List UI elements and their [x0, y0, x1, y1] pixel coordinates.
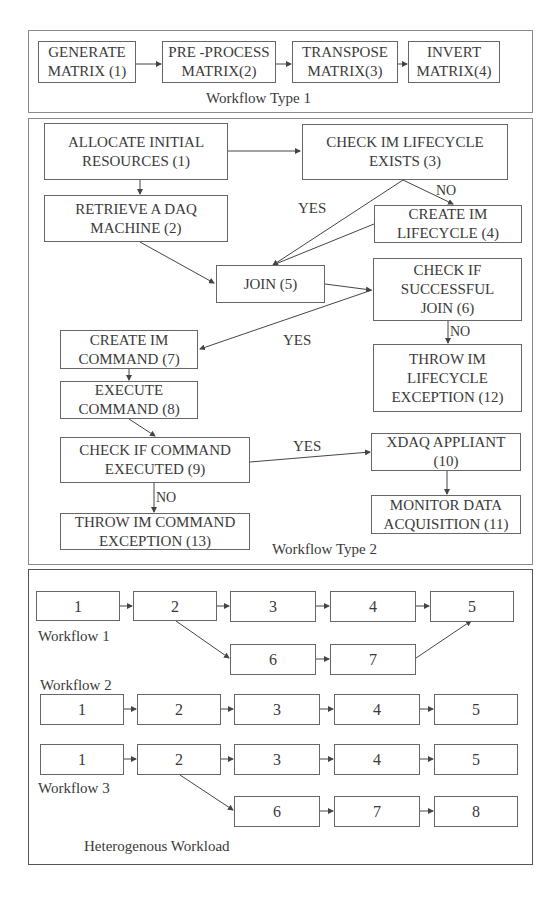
- wt2-node-2: RETRIEVE A DAQ MACHINE (2): [44, 195, 228, 242]
- wt1-node-invert-matrix: INVERT MATRIX(4): [408, 41, 500, 83]
- wf1-node-4: 4: [330, 591, 416, 622]
- wf1-node-1: 1: [36, 591, 120, 621]
- wt2-node-7: CREATE IM COMMAND (7): [60, 330, 198, 369]
- wt2-edge-label-yes-6-7: YES: [283, 332, 311, 348]
- wf2-node-3: 3: [234, 694, 320, 725]
- wf3-node-4: 4: [334, 744, 420, 775]
- wt2-edge-label-yes-9-10: YES: [293, 438, 321, 454]
- heterogenous-workload-caption: Heterogenous Workload: [84, 838, 230, 854]
- wf3-node-1: 1: [40, 744, 124, 775]
- wf1-node-3: 3: [230, 591, 316, 622]
- wf3-label: Workflow 3: [38, 780, 110, 796]
- wt2-node-3: CHECK IM LIFECYCLE EXISTS (3): [302, 124, 508, 180]
- wf1-node-6: 6: [230, 644, 316, 675]
- wt2-node-8: EXECUTE COMMAND (8): [60, 381, 198, 419]
- wt2-node-4: CREATE IM LIFECYCLE (4): [374, 205, 522, 243]
- wf3-node-6: 6: [234, 796, 320, 827]
- wt2-edge-label-no-3-4: NO: [436, 183, 456, 199]
- wt2-edge-label-no-6-12: NO: [450, 324, 470, 340]
- wf2-node-2: 2: [137, 694, 221, 725]
- wf3-node-8: 8: [434, 796, 518, 827]
- wt2-edge-label-no-9-13: NO: [156, 490, 176, 506]
- wt2-caption: Workflow Type 2: [272, 541, 377, 557]
- wf3-node-5: 5: [434, 744, 518, 775]
- wf3-node-2: 2: [137, 744, 221, 775]
- wf2-label: Workflow 2: [40, 677, 112, 693]
- wf3-node-7: 7: [334, 796, 420, 827]
- wt2-node-5: JOIN (5): [216, 265, 325, 303]
- wt2-node-11: MONITOR DATA ACQUISITION (11): [371, 495, 521, 534]
- wt2-node-12: THROW IM LIFECYCLE EXCEPTION (12): [373, 344, 522, 412]
- wt1-caption: Workflow Type 1: [206, 90, 311, 106]
- wf1-node-5: 5: [430, 591, 514, 622]
- wt1-node-generate-matrix: GENERATE MATRIX (1): [38, 41, 136, 83]
- wt2-edge-label-yes-3-5: YES: [298, 200, 326, 216]
- wt2-node-13: THROW IM COMMAND EXCEPTION (13): [60, 513, 250, 550]
- wf1-node-7: 7: [330, 644, 416, 675]
- wt1-node-preprocess-matrix: PRE -PROCESS MATRIX(2): [162, 41, 276, 83]
- wt2-node-6: CHECK IF SUCCESSFUL JOIN (6): [373, 258, 522, 321]
- wf1-label: Workflow 1: [38, 628, 110, 644]
- wt2-node-10: XDAQ APPLIANT (10): [371, 433, 521, 471]
- wt2-node-1: ALLOCATE INITIAL RESOURCES (1): [44, 123, 228, 180]
- wf3-node-3: 3: [234, 744, 320, 775]
- wf1-node-2: 2: [133, 591, 217, 621]
- wf2-node-1: 1: [40, 694, 124, 725]
- wt1-node-transpose-matrix: TRANSPOSE MATRIX(3): [292, 41, 398, 83]
- wf2-node-5: 5: [434, 694, 518, 725]
- wf2-node-4: 4: [334, 694, 420, 725]
- wt2-node-9: CHECK IF COMMAND EXECUTED (9): [60, 437, 250, 483]
